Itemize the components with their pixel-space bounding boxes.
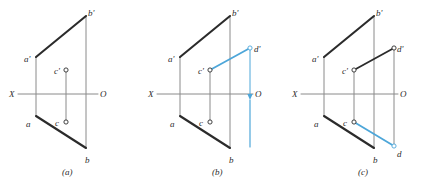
segment-a-b xyxy=(180,116,230,148)
panel-b-point-d-prime-label: d' xyxy=(254,45,260,54)
panel-a-x-axis-label: X xyxy=(9,90,15,99)
panel-b-point-c-label: c xyxy=(199,119,203,128)
segment-a-b xyxy=(324,116,374,148)
panel-b-x-axis-label: X xyxy=(148,90,154,99)
point-c-marker xyxy=(352,120,356,124)
point-c-prime-marker xyxy=(208,68,212,72)
point-c-marker xyxy=(208,120,212,124)
panel-c-point-a-label: a xyxy=(314,120,319,129)
point-d-marker xyxy=(392,144,396,148)
panel-a-caption: (a) xyxy=(62,168,73,177)
panel-b-point-a-label: a xyxy=(170,120,175,129)
segment-a-prime-b-prime xyxy=(36,16,86,57)
panel-b-point-c-prime-label: c' xyxy=(198,67,204,76)
panel-a-o-axis-label: O xyxy=(100,90,107,99)
panel-b-caption: (b) xyxy=(212,168,223,177)
point-c-prime-marker xyxy=(352,68,356,72)
panel-a-point-a-prime-label: a' xyxy=(24,55,30,64)
descriptive-geometry-figure xyxy=(0,0,427,189)
panel-c-point-d-prime-label: d' xyxy=(397,45,403,54)
panel-b-point-b-prime-label: b' xyxy=(232,9,238,18)
panel-c-o-axis-label: O xyxy=(400,90,407,99)
point-d-prime-marker xyxy=(248,46,252,50)
panel-c-point-b-prime-label: b' xyxy=(376,9,382,18)
upward-construction-arrow-head xyxy=(247,94,252,100)
point-c-marker xyxy=(64,120,68,124)
panel-c-point-d-label: d xyxy=(397,150,402,159)
panel-a-point-a-label: a xyxy=(26,120,31,129)
panel-a-point-b-prime-label: b' xyxy=(88,9,94,18)
panel-a-point-c-prime-label: c' xyxy=(54,67,60,76)
panel-b-point-a-prime-label: a' xyxy=(168,55,174,64)
panel-c-caption: (c) xyxy=(358,168,368,177)
panel-c-point-a-prime-label: a' xyxy=(312,55,318,64)
panel-b-point-b-label: b xyxy=(229,156,234,165)
segment-a-prime-b-prime xyxy=(324,16,374,57)
point-d-prime-marker xyxy=(392,46,396,50)
panel-a-point-c-label: c xyxy=(55,119,59,128)
panel-a-point-b-label: b xyxy=(85,156,90,165)
segment-a-prime-b-prime xyxy=(180,16,230,57)
panel-b-o-axis-label: O xyxy=(255,90,262,99)
point-c-prime-marker xyxy=(64,68,68,72)
panel-c-point-c-label: c xyxy=(343,119,347,128)
panel-c-point-c-prime-label: c' xyxy=(342,67,348,76)
segment-a-b xyxy=(36,116,86,148)
panel-c-point-b-label: b xyxy=(373,156,378,165)
panel-c-x-axis-label: X xyxy=(292,90,298,99)
